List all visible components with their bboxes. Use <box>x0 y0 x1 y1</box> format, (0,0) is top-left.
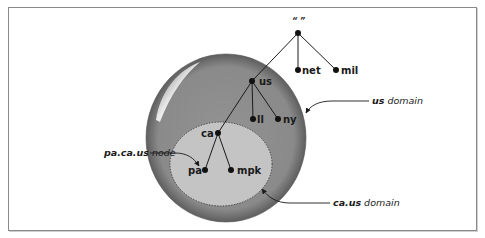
pa-node-callout-suffix: node <box>149 147 176 158</box>
label-ny: ny <box>283 114 297 125</box>
node-us <box>249 78 255 84</box>
ca-us-domain-ellipse <box>170 122 272 206</box>
label-ca: ca <box>201 128 214 139</box>
node-pa <box>202 167 208 173</box>
pa-node-callout-name: pa.ca.us <box>103 147 149 158</box>
pa-node-callout: pa.ca.us node <box>103 147 176 158</box>
node-net <box>295 67 301 73</box>
label-net: net <box>302 65 321 76</box>
label-ll: ll <box>257 114 264 125</box>
dns-hierarchy-diagram: “ ” net mil us ll ny ca pa mpk us domain… <box>0 0 485 238</box>
node-root <box>295 30 301 36</box>
us-domain-callout: us domain <box>372 95 423 106</box>
us-domain-callout-suffix: domain <box>384 95 423 106</box>
label-pa: pa <box>188 165 202 176</box>
us-domain-callout-name: us <box>372 95 385 106</box>
node-ca <box>215 130 221 136</box>
ca-us-domain-callout-suffix: domain <box>361 197 400 208</box>
node-mil <box>333 67 339 73</box>
label-mil: mil <box>341 65 358 76</box>
us-domain-arrow <box>306 101 369 113</box>
label-root: “ ” <box>292 17 305 26</box>
node-ll <box>250 116 256 122</box>
label-mpk: mpk <box>237 165 262 176</box>
node-mpk <box>228 167 234 173</box>
ca-us-domain-callout-name: ca.us <box>333 197 361 208</box>
label-us: us <box>259 76 272 87</box>
ca-us-domain-callout: ca.us domain <box>333 197 400 208</box>
node-ny <box>275 116 281 122</box>
